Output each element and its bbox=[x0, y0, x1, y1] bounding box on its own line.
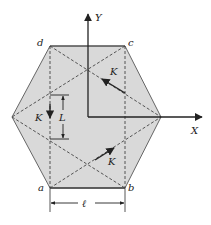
x-axis-label: X bbox=[190, 125, 199, 136]
k-vector-upper-label: K bbox=[109, 66, 118, 77]
vertex-b-label: b bbox=[128, 182, 134, 193]
vertex-a-label: a bbox=[38, 182, 44, 193]
y-axis-label: Y bbox=[95, 12, 103, 23]
k-vector-lower-label: K bbox=[107, 156, 116, 167]
dimension-ell-label: ℓ bbox=[82, 198, 86, 209]
vertex-d-label: d bbox=[37, 37, 43, 48]
vertex-c-label: c bbox=[128, 37, 134, 48]
dimension-ell bbox=[50, 188, 125, 212]
dimension-L-label: L bbox=[58, 112, 66, 123]
k-vector-left-label: K bbox=[34, 112, 43, 123]
hexagon-diagram: Y X d c a b K K K L ℓ bbox=[0, 0, 211, 225]
